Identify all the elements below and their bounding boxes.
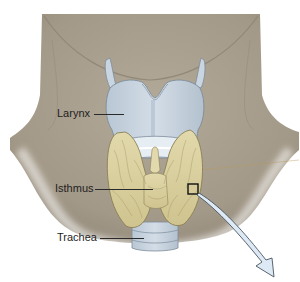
thyroid-illustration	[0, 0, 300, 282]
leader-line-isthmus	[95, 189, 153, 190]
leader-line-trachea	[100, 238, 144, 239]
label-isthmus: Isthmus	[55, 182, 94, 194]
trachea	[132, 222, 178, 251]
leader-line-larynx	[94, 114, 124, 115]
label-trachea: Trachea	[57, 231, 97, 243]
label-larynx: Larynx	[57, 107, 90, 119]
